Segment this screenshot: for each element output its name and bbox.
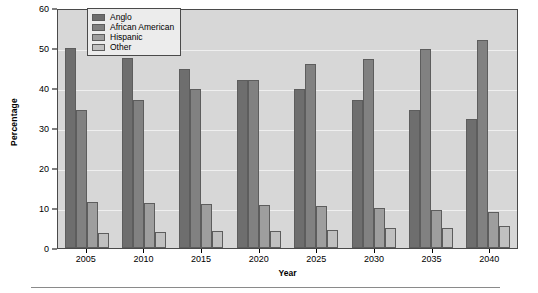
bar: [499, 226, 510, 248]
y-axis-tick-label: 0: [44, 245, 52, 254]
legend-item-label: African American: [110, 23, 174, 32]
y-axis-tick: 0: [0, 245, 57, 254]
y-axis-tick: 20: [0, 165, 57, 174]
bar: [133, 100, 144, 248]
legend-item: Anglo: [92, 12, 174, 22]
bar: [385, 228, 396, 248]
bar-group: [466, 10, 510, 248]
bar: [248, 80, 259, 248]
legend-swatch-icon: [92, 34, 105, 41]
bar: [352, 100, 363, 248]
y-axis-title: Percentage: [9, 82, 19, 162]
bar: [65, 48, 76, 248]
x-axis-tick-mark: [86, 249, 87, 253]
bar: [179, 69, 190, 248]
bar: [144, 203, 155, 248]
bar-group: [409, 10, 453, 248]
bar: [212, 231, 223, 248]
footer-divider: [31, 287, 500, 288]
legend-swatch-icon: [92, 14, 105, 21]
bar: [122, 58, 133, 248]
y-axis-tick-label: 30: [39, 125, 52, 134]
chart-legend: AngloAfrican AmericanHispanicOther: [87, 8, 181, 56]
bar-group: [352, 10, 396, 248]
bar: [294, 89, 305, 248]
bar-group: [237, 10, 281, 248]
y-axis-tick-label: 40: [39, 85, 52, 94]
legend-item-label: Other: [110, 43, 131, 52]
legend-item: Hispanic: [92, 32, 174, 42]
y-axis-tick-label: 60: [39, 5, 52, 14]
bar: [442, 228, 453, 248]
bar: [305, 64, 316, 248]
bar: [98, 233, 109, 248]
bar-group: [179, 10, 223, 248]
x-axis-tick-label: 2010: [133, 254, 153, 264]
bar: [270, 231, 281, 248]
x-axis-tick-label: 2015: [191, 254, 211, 264]
bar: [488, 212, 499, 248]
legend-item: Other: [92, 42, 174, 52]
y-axis-tick-label: 50: [39, 45, 52, 54]
y-axis-tick: 60: [0, 5, 57, 14]
x-axis-tick-label: 2035: [422, 254, 442, 264]
x-axis-tick-mark: [143, 249, 144, 253]
x-axis-tick-mark: [432, 249, 433, 253]
x-axis-tick-label: 2005: [76, 254, 96, 264]
bar: [431, 210, 442, 248]
bar: [87, 202, 98, 248]
bar: [409, 110, 420, 248]
bar: [363, 59, 374, 248]
bar: [155, 232, 166, 248]
legend-item-label: Hispanic: [110, 33, 143, 42]
y-axis-tick: 30: [0, 125, 57, 134]
bar: [259, 205, 270, 248]
bar: [76, 110, 87, 248]
y-axis-tick: 50: [0, 45, 57, 54]
legend-swatch-icon: [92, 24, 105, 31]
y-axis-tick-label: 20: [39, 165, 52, 174]
chart-figure: Percentage 0102030405060 AngloAfrican Am…: [0, 0, 538, 293]
legend-item: African American: [92, 22, 174, 32]
bar: [237, 80, 248, 248]
bar: [420, 49, 431, 248]
y-axis-tick-label: 10: [39, 205, 52, 214]
bar: [201, 204, 212, 248]
bar: [327, 230, 338, 248]
y-axis-tick: 10: [0, 205, 57, 214]
x-axis-tick-mark: [374, 249, 375, 253]
x-axis-tick-mark: [201, 249, 202, 253]
x-axis-tick-label: 2020: [249, 254, 269, 264]
x-axis-tick-mark: [259, 249, 260, 253]
legend-item-label: Anglo: [110, 13, 132, 22]
x-axis-tick-mark: [316, 249, 317, 253]
x-axis-tick-label: 2030: [364, 254, 384, 264]
bar: [374, 208, 385, 248]
bar: [190, 89, 201, 248]
x-axis-tick-mark: [489, 249, 490, 253]
legend-swatch-icon: [92, 44, 105, 51]
bar-group: [294, 10, 338, 248]
y-axis-tick: 40: [0, 85, 57, 94]
x-axis-tick-label: 2040: [479, 254, 499, 264]
y-axis: Percentage 0102030405060: [0, 9, 57, 249]
bar: [316, 206, 327, 248]
bar: [466, 119, 477, 248]
bar: [477, 40, 488, 248]
x-axis-title: Year: [57, 268, 518, 278]
x-axis-tick-label: 2025: [306, 254, 326, 264]
